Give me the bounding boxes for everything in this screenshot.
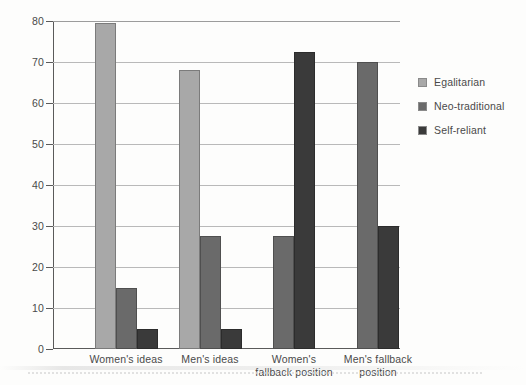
legend-swatch-icon: [418, 78, 427, 87]
legend-item[interactable]: Neo-traditional: [418, 100, 505, 112]
y-axis-tick-mark: [46, 308, 53, 309]
y-axis-tick-label: 20: [32, 261, 44, 273]
y-axis: 01020304050607080: [53, 21, 400, 349]
y-axis-tick-mark: [46, 103, 53, 104]
legend-swatch-icon: [418, 102, 427, 111]
y-axis-tick-label: 50: [32, 138, 44, 150]
y-axis-tick-mark: [46, 144, 53, 145]
y-axis-tick-mark: [46, 62, 53, 63]
bar-chart: 01020304050607080 Women's ideasMen's ide…: [0, 0, 526, 385]
scan-artifact-dotted-line: [28, 372, 483, 374]
legend-swatch-icon: [418, 126, 427, 135]
legend-label: Self-reliant: [434, 124, 486, 136]
y-axis-tick-mark: [46, 21, 53, 22]
y-axis-tick-label: 70: [32, 56, 44, 68]
scan-artifact-smudge: [0, 366, 526, 370]
legend: EgalitarianNeo-traditionalSelf-reliant: [418, 76, 505, 148]
y-axis-tick-mark: [46, 349, 53, 350]
legend-item[interactable]: Egalitarian: [418, 76, 505, 88]
y-axis-tick-mark: [46, 226, 53, 227]
legend-label: Neo-traditional: [434, 100, 505, 112]
y-axis-tick-label: 40: [32, 179, 44, 191]
x-axis-label-line: Men's fallback: [318, 353, 438, 366]
y-axis-tick-label: 80: [32, 15, 44, 27]
legend-item[interactable]: Self-reliant: [418, 124, 505, 136]
legend-label: Egalitarian: [434, 76, 485, 88]
y-axis-tick-mark: [46, 267, 53, 268]
y-axis-tick-label: 30: [32, 220, 44, 232]
y-axis-tick-label: 10: [32, 302, 44, 314]
y-axis-tick-mark: [46, 185, 53, 186]
y-axis-tick-label: 60: [32, 97, 44, 109]
y-axis-tick-label: 0: [38, 343, 44, 355]
